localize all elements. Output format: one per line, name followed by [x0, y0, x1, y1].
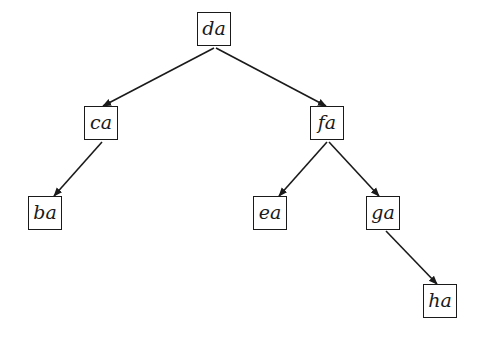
edge-fa-ga	[329, 142, 379, 196]
edge-fa-ea	[279, 142, 327, 196]
node-fa: fa	[310, 106, 344, 140]
edge-da-fa	[216, 48, 326, 106]
node-label: da	[202, 19, 226, 38]
node-ca: ca	[84, 106, 118, 140]
node-label: ea	[259, 203, 282, 222]
node-ha: ha	[423, 284, 457, 318]
edge-ga-ha	[386, 231, 437, 284]
node-label: ha	[428, 291, 452, 310]
node-da: da	[197, 12, 231, 46]
node-label: ca	[90, 113, 112, 132]
node-ba: ba	[28, 196, 62, 230]
node-label: ga	[371, 203, 395, 222]
tree-diagram: da ca fa ba ea ga ha	[0, 0, 487, 344]
node-ea: ea	[253, 196, 287, 230]
edge-ca-ba	[54, 142, 102, 196]
tree-edges	[0, 0, 487, 344]
node-ga: ga	[366, 196, 400, 230]
node-label: fa	[318, 113, 336, 132]
node-label: ba	[33, 203, 57, 222]
edge-da-ca	[103, 48, 214, 106]
